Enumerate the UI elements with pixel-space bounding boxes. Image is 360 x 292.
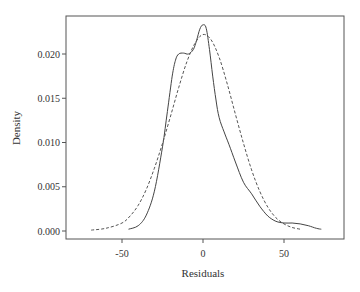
x-axis: -50050 <box>115 239 289 259</box>
y-tick-label: 0.015 <box>38 93 61 104</box>
x-tick-label: 50 <box>279 248 289 259</box>
y-tick-label: 0.010 <box>38 137 61 148</box>
y-axis-title: Density <box>10 110 22 145</box>
y-tick-label: 0.005 <box>38 181 61 192</box>
density-plot: 0.0000.0050.0100.0150.020 -50050 Residua… <box>0 0 360 292</box>
x-tick-label: 0 <box>201 248 206 259</box>
y-tick-label: 0.000 <box>38 226 61 237</box>
y-axis: 0.0000.0050.0100.0150.020 <box>38 49 67 237</box>
y-tick-label: 0.020 <box>38 49 61 60</box>
x-tick-label: -50 <box>115 248 128 259</box>
plot-frame <box>66 16 344 239</box>
series-layer <box>91 25 321 230</box>
normal-density-line <box>91 34 300 230</box>
kernel-density-line <box>129 25 322 230</box>
x-axis-title: Residuals <box>182 267 225 279</box>
